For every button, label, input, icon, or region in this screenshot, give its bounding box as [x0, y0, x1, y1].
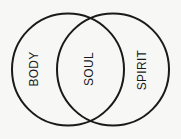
venn-diagram: BODY SOUL SPIRIT: [0, 0, 181, 139]
right-circle: [57, 14, 169, 126]
label-spirit: SPIRIT: [136, 50, 148, 90]
label-soul: SOUL: [83, 52, 95, 86]
label-body: BODY: [28, 51, 40, 86]
